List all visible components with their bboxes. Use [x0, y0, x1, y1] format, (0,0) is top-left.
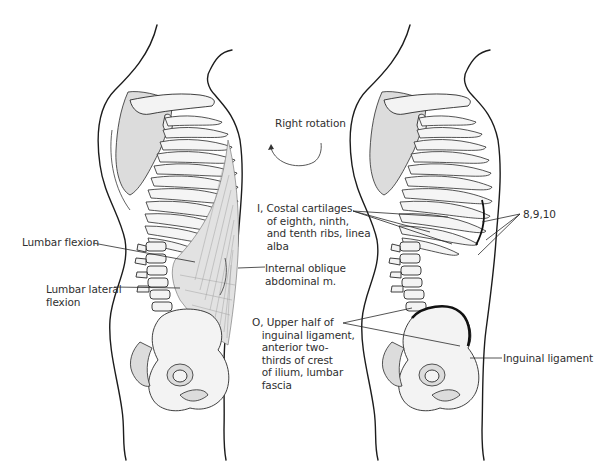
right-spine	[389, 242, 426, 311]
origin-label: O, Upper half of inguinal ligament, ante…	[252, 316, 355, 391]
lumbar-lateral-flexion-label: Lumbar lateral flexion	[46, 283, 122, 308]
muscle-name-label: Internal oblique abdominal m.	[265, 262, 346, 287]
left-pelvis	[130, 309, 228, 411]
curved-arrow-icon	[268, 143, 321, 166]
ribs-8-9-10-label: 8,9,10	[523, 208, 556, 221]
insertion-label: I, Costal cartilages of eighth, ninth, a…	[257, 202, 370, 252]
right-pelvis	[382, 306, 478, 410]
right-rotation-label: Right rotation	[275, 117, 346, 130]
left-spine	[135, 242, 172, 311]
inguinal-ligament-label: Inguinal ligament	[503, 352, 593, 365]
lumbar-flexion-label: Lumbar flexion	[22, 236, 99, 249]
